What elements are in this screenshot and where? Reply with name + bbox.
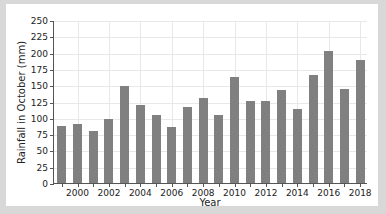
x-tick-mark (266, 183, 267, 187)
y-tick-mark (50, 168, 54, 169)
bar (214, 115, 223, 183)
x-tick-mark (203, 183, 204, 187)
gridline-horizontal (54, 135, 367, 136)
plot-area: 0255075100125150175200225250 20002002200… (53, 21, 367, 184)
y-axis-label-text: Rainfall in October (mm) (17, 41, 28, 164)
gridline-horizontal (54, 70, 367, 71)
bar (57, 126, 66, 183)
y-tick-label: 0 (42, 180, 48, 189)
gridline-horizontal (54, 168, 367, 169)
bar (309, 75, 318, 183)
bar (183, 107, 192, 183)
gridline-horizontal (54, 21, 367, 22)
x-tick-mark (297, 183, 298, 187)
bar (324, 51, 333, 183)
y-tick-label: 75 (37, 131, 48, 140)
x-tick-mark (282, 183, 283, 187)
gridline-horizontal (54, 103, 367, 104)
y-tick-label: 200 (31, 49, 48, 58)
gridline-horizontal (54, 54, 367, 55)
bar (136, 105, 145, 183)
y-tick-label: 150 (31, 82, 48, 91)
y-tick-mark (50, 119, 54, 120)
gridline-horizontal (54, 37, 367, 38)
gridline-horizontal (54, 86, 367, 87)
x-tick-mark (360, 183, 361, 187)
x-tick-mark (78, 183, 79, 187)
x-tick-mark (140, 183, 141, 187)
x-tick-mark (187, 183, 188, 187)
y-tick-mark (50, 21, 54, 22)
x-tick-mark (344, 183, 345, 187)
y-tick-mark (50, 86, 54, 87)
gridline-horizontal (54, 119, 367, 120)
bar (120, 86, 129, 183)
x-tick-mark (329, 183, 330, 187)
x-tick-mark (172, 183, 173, 187)
bar (246, 101, 255, 183)
bar (89, 131, 98, 183)
y-tick-label: 225 (31, 33, 48, 42)
bar (277, 90, 286, 183)
y-tick-label: 25 (37, 163, 48, 172)
y-tick-mark (50, 151, 54, 152)
bar (152, 115, 161, 183)
x-tick-mark (219, 183, 220, 187)
x-tick-mark (235, 183, 236, 187)
y-axis-label: Rainfall in October (mm) (15, 21, 29, 184)
x-axis-label-text: Year (199, 197, 220, 208)
y-tick-mark (50, 37, 54, 38)
gridline-horizontal (54, 151, 367, 152)
bar (340, 89, 349, 183)
bar (230, 77, 239, 183)
bar (167, 127, 176, 183)
x-axis-label: Year (53, 197, 367, 208)
x-tick-mark (93, 183, 94, 187)
y-tick-label: 175 (31, 65, 48, 74)
x-tick-mark (313, 183, 314, 187)
bar (104, 119, 113, 183)
bar (199, 98, 208, 183)
y-tick-mark (50, 54, 54, 55)
chart-figure: Rainfall in October (mm) 025507510012515… (6, 4, 378, 206)
bar (356, 60, 365, 183)
bar (261, 101, 270, 183)
y-tick-label: 100 (31, 114, 48, 123)
y-tick-mark (50, 184, 54, 185)
y-tick-mark (50, 70, 54, 71)
x-tick-mark (250, 183, 251, 187)
y-tick-label: 125 (31, 98, 48, 107)
y-tick-mark (50, 135, 54, 136)
y-tick-label: 250 (31, 17, 48, 26)
bar (73, 124, 82, 183)
x-tick-mark (125, 183, 126, 187)
y-tick-mark (50, 103, 54, 104)
x-tick-mark (109, 183, 110, 187)
bar (293, 109, 302, 183)
y-tick-label: 50 (37, 147, 48, 156)
x-tick-mark (62, 183, 63, 187)
x-tick-mark (156, 183, 157, 187)
